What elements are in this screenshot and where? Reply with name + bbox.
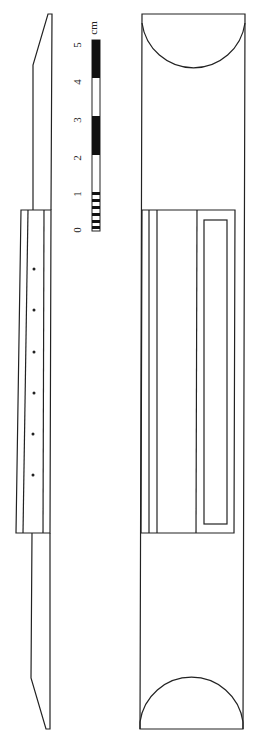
rivet-dot <box>33 392 36 395</box>
side-view-dots <box>32 268 36 477</box>
side-view <box>16 14 52 729</box>
top-slot-window <box>204 220 227 524</box>
scale-unit-label: cm <box>87 21 99 35</box>
scale-label-3: 3 <box>71 117 83 123</box>
top-upper-semicircle <box>142 23 245 68</box>
top-handle-block <box>141 210 235 533</box>
rivet-dot <box>33 309 36 312</box>
side-lower-blade <box>31 533 50 729</box>
scale-label-0: 0 <box>71 227 83 233</box>
side-handle-inner-right <box>43 210 44 533</box>
top-view <box>140 14 245 729</box>
technical-drawing: cm 5 4 3 2 1 0 <box>0 0 258 737</box>
side-handle-outer <box>16 210 51 533</box>
scale-segment-2-3 <box>92 116 100 155</box>
side-handle-inner-left <box>23 210 28 533</box>
rivet-dot <box>33 268 36 271</box>
top-lower-semicircle <box>140 677 243 729</box>
scale-label-5: 5 <box>71 42 83 48</box>
scale-bar <box>92 40 100 231</box>
side-upper-blade <box>33 14 52 210</box>
scale-label-4: 4 <box>71 79 83 85</box>
scale-label-1: 1 <box>71 191 83 197</box>
rivet-dot <box>33 351 36 354</box>
scale-label-2: 2 <box>71 155 83 161</box>
scale-segment-4-5 <box>92 40 100 78</box>
top-outer-outline <box>140 14 245 729</box>
rivet-dot <box>32 474 35 477</box>
top-handle-line-3 <box>196 210 197 533</box>
rivet-dot <box>32 433 35 436</box>
